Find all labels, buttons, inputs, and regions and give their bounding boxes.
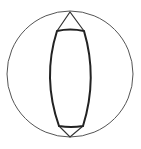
geometric-diagram <box>0 0 141 149</box>
